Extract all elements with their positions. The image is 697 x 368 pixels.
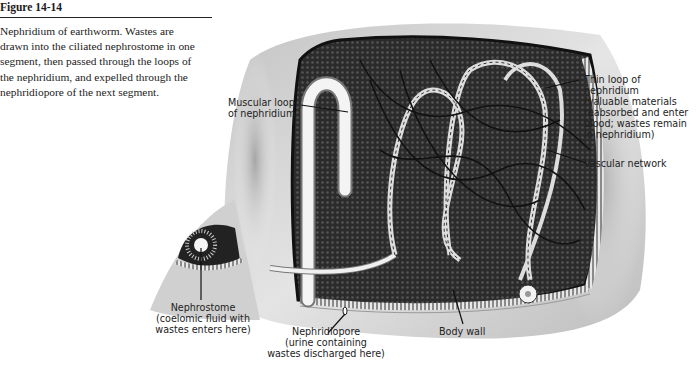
label-body-wall: Body wall <box>439 326 485 337</box>
inner-nephrostome <box>519 285 537 303</box>
label-nephrostome: Nephrostome (coelomic fluid with wastes … <box>146 302 260 335</box>
nephridium-illustration <box>0 0 697 368</box>
nephrostome-illustration <box>176 225 242 268</box>
nephridiopore-illustration <box>343 307 347 315</box>
label-vascular-network: Vascular network <box>584 158 667 169</box>
label-nephridiopore: Nephridiopore (urine containing wastes d… <box>262 326 390 359</box>
label-thin-loop: Thin loop of nephridium (valuable materi… <box>584 74 688 140</box>
label-muscular-loop: Muscular loop of nephridium <box>228 97 295 119</box>
